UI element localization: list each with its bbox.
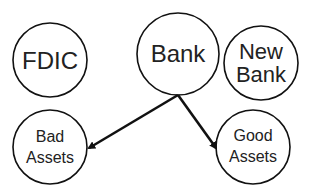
arrow-bank-to-bad-assets (89, 95, 178, 148)
bank-label: Bank (151, 41, 206, 66)
fdic-label: FDIC (22, 48, 78, 73)
arrow-bank-to-good-assets (178, 95, 216, 148)
new-bank-label: New Bank (236, 40, 286, 86)
bad-assets-label: Bad Assets (26, 127, 74, 169)
good-assets-label: Good Assets (229, 126, 277, 168)
